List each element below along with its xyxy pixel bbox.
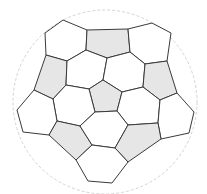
faces-group xyxy=(17,20,194,183)
polyhedron-schlegel-diagram xyxy=(0,0,207,194)
diagram-canvas xyxy=(0,0,207,194)
hexagon-face xyxy=(158,93,194,139)
